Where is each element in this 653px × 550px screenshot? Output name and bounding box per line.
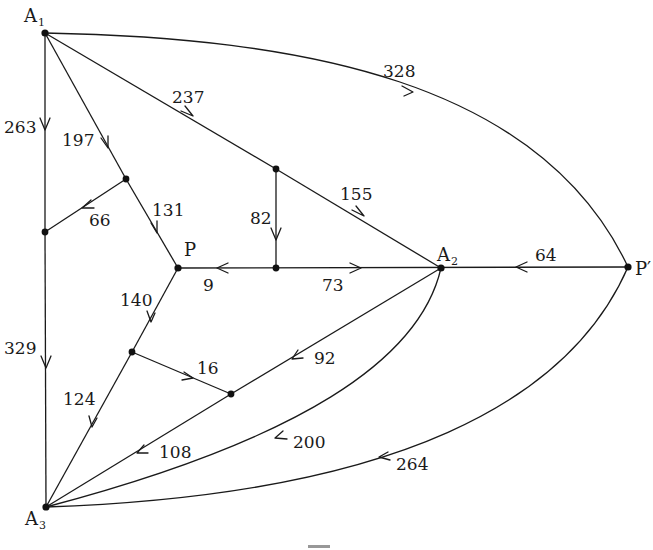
weight-label: 9 xyxy=(203,275,214,295)
edge-n5-a3 xyxy=(46,352,132,507)
node-junction xyxy=(228,391,235,398)
weight-label: 108 xyxy=(159,442,191,462)
weight-label: 155 xyxy=(340,184,372,204)
weight-label: 92 xyxy=(314,348,336,368)
node-label-a1: A1 xyxy=(23,5,45,29)
arrow-icon xyxy=(402,86,413,96)
edge-p-n5 xyxy=(132,268,178,352)
weight-label: 131 xyxy=(152,200,184,220)
weight-label: 66 xyxy=(89,210,111,230)
node-labels: A1 A2 A3 P P′ xyxy=(23,5,651,532)
weight-label: 64 xyxy=(535,245,557,265)
node-junction xyxy=(273,166,280,173)
node-a1 xyxy=(41,29,48,36)
weight-label: 140 xyxy=(120,290,152,310)
weight-label: 200 xyxy=(293,432,325,452)
nodes xyxy=(41,29,631,510)
weight-label: 124 xyxy=(63,389,95,409)
arrow-icon xyxy=(275,431,287,439)
node-label-p-prime: P′ xyxy=(635,258,651,279)
edge-a1-n1 xyxy=(45,33,126,179)
weight-label: 264 xyxy=(396,454,428,474)
edges xyxy=(45,33,628,507)
network-diagram: A1 A2 A3 P P′ 263 329 197 66 131 237 155… xyxy=(0,0,653,550)
arrow-icon xyxy=(352,206,364,216)
arrow-icon xyxy=(101,136,108,148)
node-a2 xyxy=(437,264,444,271)
weight-label: 329 xyxy=(4,338,36,358)
weight-label: 82 xyxy=(250,208,272,228)
node-junction xyxy=(273,265,280,272)
arrowheads xyxy=(40,86,527,460)
weight-label: 73 xyxy=(322,275,344,295)
node-junction xyxy=(129,349,136,356)
weight-label: 237 xyxy=(172,87,204,107)
node-junction xyxy=(123,176,130,183)
figure-caption-fragment xyxy=(308,545,330,548)
weight-label: 16 xyxy=(197,358,219,378)
edge-n2-a3 xyxy=(45,232,46,507)
weight-label: 263 xyxy=(4,117,36,137)
node-label-a3: A3 xyxy=(24,508,46,532)
edge-horizontal-p-pprime xyxy=(178,267,628,268)
node-a3 xyxy=(42,503,49,510)
node-p-prime xyxy=(624,263,631,270)
weight-label: 328 xyxy=(383,61,415,81)
edge-a1-pprime xyxy=(45,33,628,267)
node-p xyxy=(174,264,181,271)
node-label-a2: A2 xyxy=(436,244,458,268)
weight-label: 197 xyxy=(62,130,94,150)
node-label-p: P xyxy=(184,239,196,260)
node-junction xyxy=(42,229,49,236)
